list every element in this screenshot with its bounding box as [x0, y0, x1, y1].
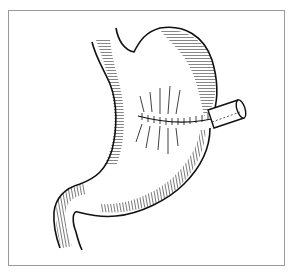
tube [208, 99, 248, 128]
stomach-illustration [0, 0, 293, 274]
shading [56, 30, 216, 248]
